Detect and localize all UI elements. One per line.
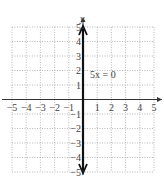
x-tick-label: 2 [109, 102, 114, 113]
x-tick-label: 4 [137, 102, 142, 113]
x-tick-label: 1 [95, 102, 100, 113]
y-tick-label: −1 [70, 109, 81, 120]
x-tick-label: −4 [21, 102, 32, 113]
equation-label: 5x = 0 [90, 69, 116, 80]
coordinate-graph: −5−4−3−2−11234554321−1−2−3−4−5 y 5x = 0 [0, 0, 164, 177]
x-axis-arrow-icon [157, 97, 162, 102]
y-tick-label: 3 [76, 51, 81, 62]
x-tick-label: −5 [7, 102, 18, 113]
y-tick-label: 4 [76, 36, 81, 47]
x-tick-label: 3 [123, 102, 128, 113]
y-tick-label: −4 [70, 152, 81, 163]
y-tick-label: 1 [76, 80, 81, 91]
x-tick-label: −2 [49, 102, 60, 113]
y-tick-label: −2 [70, 123, 81, 134]
y-tick-label: 2 [76, 65, 81, 76]
y-axis-label: y [79, 13, 85, 24]
x-tick-label: −3 [35, 102, 46, 113]
x-tick-label: 5 [152, 102, 157, 113]
y-tick-label: −3 [70, 138, 81, 149]
y-tick-label: −5 [70, 167, 81, 178]
